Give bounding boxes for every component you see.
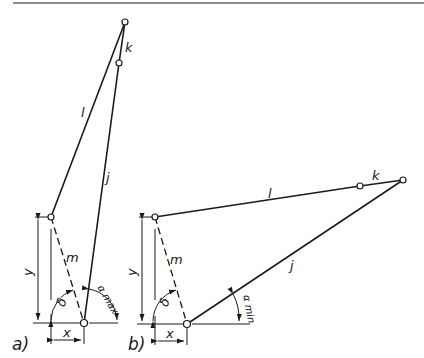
link-j-b — [187, 180, 403, 324]
panel-label-b: b) — [128, 334, 145, 354]
pivot-left-b — [152, 214, 158, 220]
pivot-ground-b — [184, 321, 191, 328]
pivot-top-a — [122, 19, 128, 25]
label-k-b: k — [372, 168, 380, 183]
label-l-a: l — [81, 105, 85, 120]
pivot-lk-b — [357, 183, 363, 189]
linkage-diagram: l k j m y x δ α max a) — [0, 0, 424, 358]
label-alpha-b: α min — [241, 294, 257, 324]
label-m-b: m — [170, 252, 183, 267]
panel-b: l k j m y x δ α min b) — [124, 168, 406, 354]
panel-a: l k j m y x δ α max a) — [12, 19, 133, 354]
label-alpha-a: α max — [96, 283, 121, 316]
label-delta-a: δ — [53, 296, 70, 309]
label-m-a: m — [66, 250, 79, 265]
panel-label-a: a) — [12, 334, 29, 354]
link-l-a — [51, 22, 125, 217]
label-l-b: l — [268, 186, 272, 201]
pivot-ground-a — [81, 320, 88, 327]
label-j-b: j — [288, 258, 294, 273]
pivot-kj-a — [116, 60, 122, 66]
label-k-a: k — [125, 40, 133, 55]
link-l-b — [155, 186, 360, 217]
pivot-left-a — [48, 214, 54, 220]
alpha-arc-b — [233, 294, 239, 321]
label-x-a: x — [62, 325, 71, 340]
link-m-b — [155, 217, 187, 324]
pivot-kj-b — [400, 177, 406, 183]
label-x-b: x — [165, 326, 174, 341]
label-delta-b: δ — [156, 296, 173, 309]
label-y-a: y — [20, 268, 35, 277]
label-y-b: y — [124, 268, 139, 277]
